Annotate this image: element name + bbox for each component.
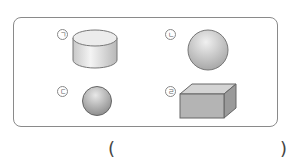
cylinder-icon	[71, 28, 119, 70]
label-nieun: ㄴ	[165, 29, 176, 40]
answer-open-paren: (	[108, 138, 115, 159]
sphere-icon	[186, 28, 230, 72]
cuboid-icon	[178, 82, 240, 120]
label-digeut: ㄷ	[57, 86, 68, 97]
label-rieul: ㄹ	[165, 86, 176, 97]
small-sphere-icon	[81, 85, 113, 117]
answer-close-paren: )	[280, 138, 287, 159]
label-giyeok: ㄱ	[57, 29, 68, 40]
